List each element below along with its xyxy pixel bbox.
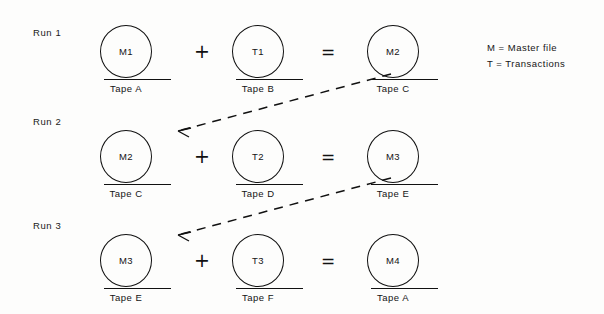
reel-label-t2: T2 (232, 151, 284, 162)
legend-item-master: M = Master file (487, 42, 557, 53)
tape-label-c2: Tape C (100, 188, 152, 199)
operator-plus-run2: + (194, 147, 210, 166)
tape-label-a3: Tape A (367, 292, 419, 303)
tape-label-d2: Tape D (232, 188, 284, 199)
tape-label-b1: Tape B (232, 83, 284, 94)
reel-label-m1: M1 (100, 46, 152, 57)
tape-baseline-f3 (236, 288, 303, 289)
reel-label-m3-run3: M3 (100, 255, 152, 266)
operator-equals-run3: = (321, 253, 335, 270)
tape-label-e2: Tape E (367, 188, 419, 199)
reel-label-m4: M4 (367, 255, 419, 266)
run-label-3: Run 3 (33, 220, 61, 231)
tape-baseline-a3 (371, 288, 438, 289)
tape-update-diagram: Run 1 M1 Tape A + T1 Tape B = M2 Tape C … (0, 0, 604, 314)
reel-label-m2-run1: M2 (367, 46, 419, 57)
tape-baseline-e2 (371, 184, 438, 185)
reel-label-m2-run2: M2 (100, 151, 152, 162)
run-label-1: Run 1 (33, 27, 61, 38)
operator-equals-run1: = (321, 44, 335, 61)
flow-arrow-run2-to-run3 (178, 178, 391, 241)
tape-label-c1: Tape C (367, 83, 419, 94)
reel-label-t3: T3 (232, 255, 284, 266)
flow-arrow-run1-to-run2 (178, 74, 391, 137)
run-label-2: Run 2 (33, 116, 61, 127)
tape-baseline-b1 (236, 79, 303, 80)
reel-label-t1: T1 (232, 46, 284, 57)
operator-equals-run2: = (321, 149, 335, 166)
tape-baseline-d2 (236, 184, 303, 185)
operator-plus-run3: + (194, 251, 210, 270)
tape-label-a1: Tape A (100, 83, 152, 94)
tape-label-f3: Tape F (232, 292, 284, 303)
tape-label-e3: Tape E (100, 292, 152, 303)
tape-baseline-e3 (104, 288, 171, 289)
legend-item-transactions: T = Transactions (487, 58, 565, 69)
reel-label-m3-run2: M3 (367, 151, 419, 162)
tape-baseline-a1 (104, 79, 171, 80)
tape-baseline-c1 (371, 79, 438, 80)
tape-baseline-c2 (104, 184, 171, 185)
operator-plus-run1: + (194, 42, 210, 61)
